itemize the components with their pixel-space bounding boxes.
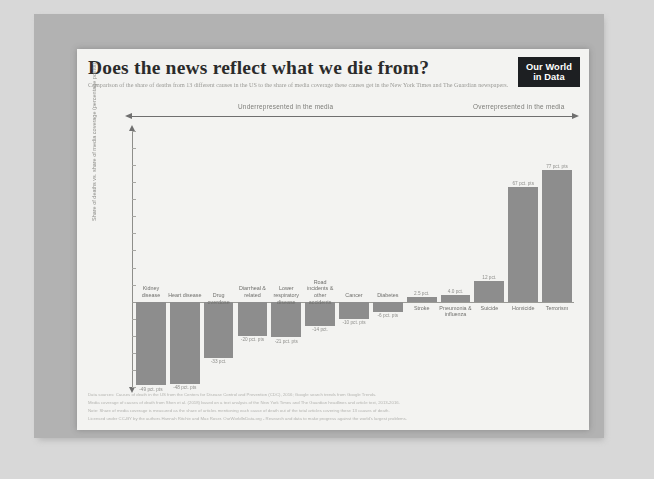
- footnote-line-2: Media coverage of causes of death from S…: [88, 399, 578, 407]
- bar-category-label: Road incidents & other accidents: [303, 279, 337, 305]
- chart-card: Does the news reflect what we die from? …: [77, 49, 589, 430]
- slide-canvas: Does the news reflect what we die from? …: [0, 0, 654, 479]
- bar-value-label: -14 pct.: [303, 327, 337, 332]
- bar-category-label: Kidney disease: [134, 285, 168, 298]
- y-axis: [132, 131, 133, 387]
- bar[interactable]: [238, 302, 268, 336]
- chart-header: Does the news reflect what we die from? …: [88, 58, 578, 102]
- bar[interactable]: [305, 302, 335, 326]
- chart-footnotes: Data sources: Causes of death in the US …: [88, 391, 578, 423]
- bar-slot[interactable]: Terrorism77 pct. pts: [540, 125, 574, 401]
- bar-category-label: Suicide: [472, 305, 506, 312]
- bar-value-label: -48 pct. pts: [168, 385, 202, 390]
- bar-category-label: Homicide: [506, 305, 540, 312]
- bar-slot[interactable]: Cancer-10 pct. pts: [337, 125, 371, 401]
- bar-slot[interactable]: Drug overdose-33 pct.: [202, 125, 236, 401]
- y-axis-label: Share of deaths vs. share of media cover…: [91, 63, 97, 221]
- bar[interactable]: [204, 302, 234, 358]
- bar[interactable]: [542, 170, 572, 301]
- bar[interactable]: [407, 297, 437, 301]
- bar-category-label: Heart disease: [168, 292, 202, 299]
- bar-slot[interactable]: Pneumonia & influenza4.0 pct.: [439, 125, 473, 401]
- bar-value-label: -10 pct. pts: [337, 320, 371, 325]
- bar[interactable]: [508, 187, 538, 301]
- bar-value-label: 67 pct. pts: [506, 181, 540, 186]
- bar[interactable]: [474, 281, 504, 301]
- bar-slot[interactable]: Lower respiratory disease-21 pct. pts: [269, 125, 303, 401]
- direction-arrow: [132, 116, 572, 117]
- bar[interactable]: [170, 302, 200, 384]
- bar-value-label: 77 pct. pts: [540, 164, 574, 169]
- bar-category-label: Pneumonia & influenza: [439, 305, 473, 318]
- footnote-line-3: Note: Share of media coverage is measure…: [88, 407, 578, 415]
- bar-slot[interactable]: Road incidents & other accidents-14 pct.: [303, 125, 337, 401]
- logo-line-1: Our World: [526, 62, 572, 72]
- bar-value-label: 2.5 pct.: [405, 291, 439, 296]
- logo-line-2: in Data: [533, 72, 565, 82]
- bar[interactable]: [271, 302, 301, 338]
- bar-value-label: -20 pct. pts: [236, 337, 270, 342]
- underrepresented-label: Underrepresented in the media: [238, 103, 333, 110]
- bar-category-label: Diabetes: [371, 292, 405, 299]
- bar-category-label: Lower respiratory disease: [269, 285, 303, 305]
- bar[interactable]: [373, 302, 403, 312]
- bar-slot[interactable]: Kidney disease-49 pct. pts: [134, 125, 168, 401]
- bar-category-label: Drug overdose: [202, 292, 236, 305]
- bar-value-label: -33 pct.: [202, 359, 236, 364]
- bar-value-label: -6 pct. pts: [371, 313, 405, 318]
- bar-slot[interactable]: Heart disease-48 pct. pts: [168, 125, 202, 401]
- bar[interactable]: [136, 302, 166, 386]
- bar-category-label: Terrorism: [540, 305, 574, 312]
- bar-group: Kidney disease-49 pct. ptsHeart disease-…: [134, 125, 574, 401]
- plot-area: Share of deaths vs. share of media cover…: [88, 125, 578, 401]
- bar-category-label: Cancer: [337, 292, 371, 299]
- page-title: Does the news reflect what we die from?: [88, 58, 578, 78]
- bar-slot[interactable]: Stroke2.5 pct.: [405, 125, 439, 401]
- bar-value-label: 12 pct.: [472, 275, 506, 280]
- bar-slot[interactable]: Suicide12 pct.: [472, 125, 506, 401]
- direction-band: Underrepresented in the media Overrepres…: [88, 104, 578, 124]
- bar-slot[interactable]: Diarrheal & related-20 pct. pts: [236, 125, 270, 401]
- bar-category-label: Diarrheal & related: [236, 285, 270, 298]
- footnote-line-4: Licensed under CC-BY by the authors Hann…: [88, 415, 578, 423]
- our-world-in-data-logo[interactable]: Our World in Data: [518, 57, 580, 87]
- overrepresented-label: Overrepresented in the media: [473, 103, 565, 110]
- bar-value-label: 4.0 pct.: [439, 289, 473, 294]
- chart-subtitle: Comparison of the share of deaths from 1…: [88, 81, 518, 90]
- bar-value-label: -21 pct. pts: [269, 339, 303, 344]
- bar-category-label: Stroke: [405, 305, 439, 312]
- bar[interactable]: [339, 302, 369, 319]
- bar[interactable]: [441, 295, 471, 302]
- bar-slot[interactable]: Homicide67 pct. pts: [506, 125, 540, 401]
- bar-slot[interactable]: Diabetes-6 pct. pts: [371, 125, 405, 401]
- footnote-line-1: Data sources: Causes of death in the US …: [88, 391, 578, 399]
